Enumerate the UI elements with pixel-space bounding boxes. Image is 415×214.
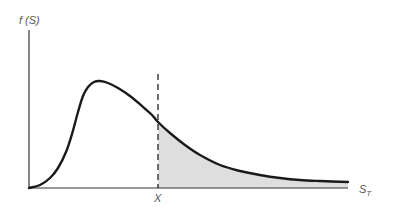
x-axis-label-subscript: T (366, 189, 371, 198)
y-axis-label: f (S) (19, 15, 40, 26)
density-figure (0, 0, 415, 214)
x-axis-label: ST (359, 184, 371, 195)
tail-shaded-area (158, 122, 348, 188)
strike-label: X (154, 193, 161, 204)
